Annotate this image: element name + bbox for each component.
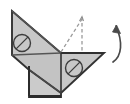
origami-figure <box>0 0 130 104</box>
origami-diagram-svg <box>0 0 130 104</box>
dashed-guides <box>61 17 84 53</box>
paper-panels <box>12 11 104 97</box>
fold-up-arrow-head <box>113 25 121 34</box>
dashed-hypotenuse-guide <box>61 19 82 52</box>
fold-up-arrow <box>113 25 121 62</box>
